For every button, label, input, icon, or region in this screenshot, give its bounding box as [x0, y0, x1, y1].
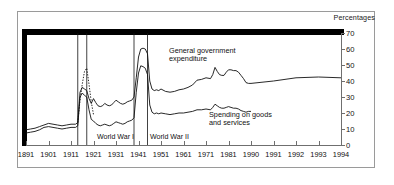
x-tick-mark-1990: [251, 141, 252, 146]
spending-on-goods-and-services-label: Spending on goods and services: [209, 111, 272, 128]
x-tick-mark-1951: [161, 141, 162, 146]
y-tick-mark-40: [341, 81, 345, 82]
world-war-2-label: World War II: [150, 133, 189, 141]
y-tick-mark-20: [341, 113, 345, 114]
sgs-label-line2: and services: [209, 119, 272, 127]
gge-label-line2: expenditure: [169, 55, 236, 63]
x-tick-mark-1911: [71, 141, 72, 146]
x-tick-label-1951: 1951: [153, 150, 169, 159]
y-tick-mark-10: [341, 129, 345, 130]
y-tick-label-30: 30: [346, 93, 354, 102]
y-tick-mark-50: [341, 65, 345, 66]
world-war-1-label: World War I: [97, 133, 134, 141]
x-tick-label-1992: 1992: [288, 150, 304, 159]
x-tick-mark-1991: [274, 141, 275, 146]
x-tick-mark-1993: [319, 141, 320, 146]
x-tick-label-1921: 1921: [85, 150, 101, 159]
y-tick-label-20: 20: [346, 109, 354, 118]
y-tick-label-0: 0: [346, 141, 350, 150]
x-tick-label-1901: 1901: [40, 150, 56, 159]
x-tick-label-1941: 1941: [130, 150, 146, 159]
x-tick-label-1961: 1961: [175, 150, 191, 159]
x-tick-mark-1931: [116, 141, 117, 146]
x-tick-mark-1921: [94, 141, 95, 146]
general-government-expenditure-label: General government expenditure: [169, 47, 236, 64]
x-tick-label-1991: 1991: [265, 150, 281, 159]
x-tick-mark-1891: [26, 141, 27, 146]
y-tick-label-40: 40: [346, 77, 354, 86]
x-tick-mark-1971: [206, 141, 207, 146]
x-tick-label-1993: 1993: [310, 150, 326, 159]
y-tick-mark-70: [341, 33, 345, 34]
x-tick-mark-1992: [296, 141, 297, 146]
x-tick-label-1994: 1994: [333, 150, 349, 159]
x-tick-mark-1994: [341, 141, 342, 146]
y-tick-mark-60: [341, 49, 345, 50]
x-tick-label-1981: 1981: [220, 150, 236, 159]
x-tick-label-1990: 1990: [243, 150, 259, 159]
y-tick-label-60: 60: [346, 45, 354, 54]
y-tick-label-70: 70: [346, 29, 354, 38]
x-tick-mark-1981: [229, 141, 230, 146]
x-tick-label-1891: 1891: [18, 150, 34, 159]
x-tick-label-1911: 1911: [63, 150, 79, 159]
x-tick-mark-1941: [139, 141, 140, 146]
x-tick-mark-1901: [49, 141, 50, 146]
x-tick-mark-1961: [184, 141, 185, 146]
chart-figure: Percentages 010203040506070 189119011911…: [0, 0, 394, 185]
y-axis-caption: Percentages: [334, 13, 375, 22]
x-tick-label-1931: 1931: [108, 150, 124, 159]
y-tick-label-10: 10: [346, 125, 354, 134]
x-tick-label-1971: 1971: [198, 150, 214, 159]
y-tick-mark-30: [341, 97, 345, 98]
y-tick-label-50: 50: [346, 61, 354, 70]
